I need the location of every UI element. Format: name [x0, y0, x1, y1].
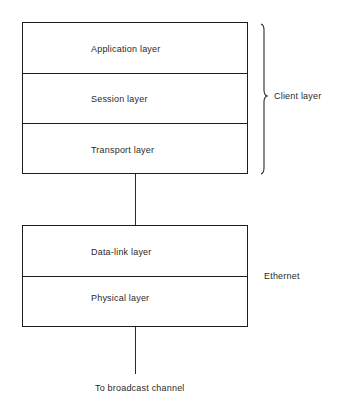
- session-layer-label: Session layer: [91, 94, 148, 104]
- data-link-layer-box: Data-link layer: [23, 226, 247, 277]
- broadcast-channel-label: To broadcast channel: [95, 383, 185, 393]
- stack-connector-line: [135, 174, 136, 225]
- client-layer-stack: Application layer Session layer Transpor…: [22, 22, 248, 174]
- ethernet-group-label: Ethernet: [264, 271, 300, 281]
- transport-layer-box: Transport layer: [23, 124, 247, 175]
- transport-layer-label: Transport layer: [91, 145, 154, 155]
- physical-layer-label: Physical layer: [91, 293, 149, 303]
- curly-brace-icon: [258, 22, 272, 176]
- data-link-layer-label: Data-link layer: [91, 247, 152, 257]
- application-layer-box: Application layer: [23, 23, 247, 74]
- session-layer-box: Session layer: [23, 74, 247, 125]
- application-layer-label: Application layer: [91, 44, 160, 54]
- broadcast-channel-line: [135, 327, 136, 374]
- client-layer-group-label: Client layer: [274, 91, 321, 101]
- physical-layer-box: Physical layer: [23, 277, 247, 328]
- ethernet-stack: Data-link layer Physical layer: [22, 225, 248, 327]
